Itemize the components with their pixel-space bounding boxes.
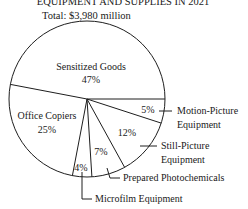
pct-office-copiers: 25%: [38, 124, 56, 135]
slice-boundaries: [10, 84, 165, 176]
pct-sensitized-goods: 47%: [82, 74, 100, 85]
label-still-picture-1: Still-Picture: [161, 140, 210, 151]
label-office-copiers: Office Copiers: [18, 110, 77, 121]
pct-still-picture: 12%: [118, 127, 136, 138]
label-still-picture-2: Equipment: [161, 154, 205, 165]
leader-photochemicals: [107, 168, 120, 178]
pct-microfilm: 4%: [74, 162, 87, 173]
label-motion-picture-2: Equipment: [177, 119, 221, 130]
label-microfilm: Microfilm Equipment: [95, 193, 183, 204]
boundary-office-sensitized: [10, 84, 87, 99]
boundary-photochem-microfilm: [87, 99, 92, 177]
label-sensitized-goods: Sensitized Goods: [56, 61, 126, 72]
chart-total: Total: $3,980 million: [42, 10, 132, 21]
leader-microfilm: [82, 172, 92, 199]
label-photochemicals: Prepared Photochemicals: [123, 172, 224, 183]
pie-chart: EQUIPMENT AND SUPPLIES IN 2021 Total: $3…: [0, 0, 248, 209]
pct-motion-picture: 5%: [141, 104, 154, 115]
chart-title: EQUIPMENT AND SUPPLIES IN 2021: [37, 0, 210, 7]
label-motion-picture-1: Motion-Picture: [177, 105, 239, 116]
pct-photochemicals: 7%: [94, 146, 107, 157]
